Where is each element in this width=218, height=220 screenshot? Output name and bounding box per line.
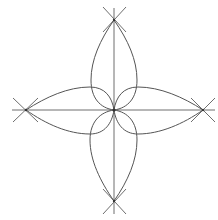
bottom-tip-point [113,200,115,202]
center-point [113,109,116,112]
right-tip-point [202,109,204,111]
left-tip-point [25,109,27,111]
top-tip-point [113,19,115,21]
petal-construction-diagram [0,0,218,220]
